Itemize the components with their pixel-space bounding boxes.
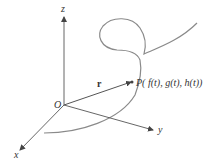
vector-r-label: r — [97, 78, 102, 89]
point-p-dot — [131, 81, 134, 84]
space-curve — [44, 19, 197, 133]
x-axis — [20, 105, 64, 150]
space-curve-diagram: z y x O r P( f(t), g(t), h(t)) — [0, 0, 219, 167]
z-axis-label: z — [60, 3, 65, 14]
x-axis-label: x — [13, 149, 19, 160]
point-p-label: P( f(t), g(t), h(t)) — [135, 77, 203, 89]
y-axis-label: y — [157, 124, 163, 135]
y-axis — [64, 105, 153, 130]
origin-label: O — [54, 99, 61, 110]
